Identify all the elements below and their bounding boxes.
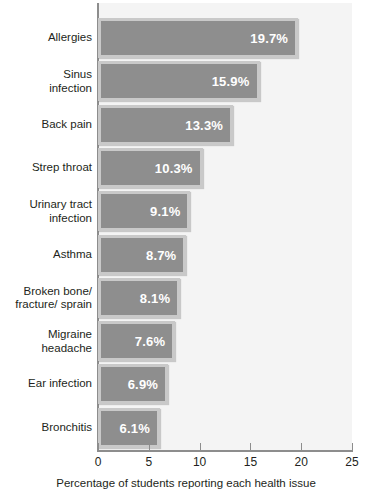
category-label: Urinary tract infection — [0, 198, 92, 225]
x-tick-label: 10 — [180, 455, 220, 469]
bar-wrapper: 10.3% — [98, 148, 203, 188]
bar[interactable]: 6.9% — [98, 364, 168, 404]
bar-row: Asthma8.7% — [0, 235, 372, 275]
category-label: Asthma — [0, 248, 92, 262]
bar-value-label: 9.1% — [150, 204, 180, 219]
x-tick-mark — [352, 443, 353, 451]
bar[interactable]: 10.3% — [98, 148, 203, 188]
bar-wrapper: 13.3% — [98, 105, 233, 145]
bar-wrapper: 19.7% — [98, 18, 298, 58]
bar-value-label: 15.9% — [212, 74, 250, 89]
x-axis-title: Percentage of students reporting each he… — [0, 477, 372, 489]
bar-row: Allergies19.7% — [0, 18, 372, 58]
category-label: Allergies — [0, 31, 92, 45]
bar-row: Sinus infection15.9% — [0, 61, 372, 101]
bar-row: Strep throat10.3% — [0, 148, 372, 188]
category-label: Broken bone/ fracture/ sprain — [0, 284, 92, 311]
x-tick-mark — [200, 443, 201, 451]
bar[interactable]: 8.1% — [98, 278, 180, 318]
x-axis-line — [97, 450, 353, 452]
bar-value-label: 8.7% — [146, 247, 176, 262]
x-tick-label: 25 — [332, 455, 372, 469]
bar[interactable]: 9.1% — [98, 191, 190, 231]
x-tick-label: 0 — [78, 455, 118, 469]
category-label: Strep throat — [0, 161, 92, 175]
bar-value-label: 10.3% — [155, 160, 193, 175]
bar[interactable]: 7.6% — [98, 321, 175, 361]
bar-row: Bronchitis6.1% — [0, 408, 372, 448]
bar-wrapper: 8.1% — [98, 278, 180, 318]
category-label: Sinus infection — [0, 68, 92, 95]
bar-value-label: 8.1% — [140, 290, 170, 305]
bar[interactable]: 13.3% — [98, 105, 233, 145]
x-tick-mark — [301, 443, 302, 451]
bar-row: Urinary tract infection9.1% — [0, 191, 372, 231]
bar[interactable]: 6.1% — [98, 408, 160, 448]
x-tick-mark — [250, 443, 251, 451]
x-tick-label: 15 — [230, 455, 270, 469]
bar[interactable]: 19.7% — [98, 18, 298, 58]
category-label: Back pain — [0, 118, 92, 132]
bar-wrapper: 9.1% — [98, 191, 190, 231]
bar-value-label: 6.9% — [128, 377, 158, 392]
bar-value-label: 6.1% — [120, 420, 150, 435]
bar[interactable]: 15.9% — [98, 61, 260, 101]
bar-wrapper: 6.1% — [98, 408, 160, 448]
x-tick-label: 5 — [129, 455, 169, 469]
x-tick-label: 20 — [281, 455, 321, 469]
bar-row: Migraine headache7.6% — [0, 321, 372, 361]
bar-wrapper: 8.7% — [98, 235, 186, 275]
bar-row: Ear infection6.9% — [0, 364, 372, 404]
bar-value-label: 7.6% — [135, 334, 165, 349]
bar-value-label: 13.3% — [185, 117, 223, 132]
category-label: Migraine headache — [0, 328, 92, 355]
bar-value-label: 19.7% — [250, 31, 288, 46]
bar[interactable]: 8.7% — [98, 235, 186, 275]
x-tick-mark — [98, 443, 99, 451]
bar-row: Back pain13.3% — [0, 105, 372, 145]
category-label: Bronchitis — [0, 421, 92, 435]
horizontal-bar-chart: Allergies19.7%Sinus infection15.9%Back p… — [0, 0, 372, 500]
x-tick-mark — [149, 443, 150, 451]
bar-wrapper: 7.6% — [98, 321, 175, 361]
bar-row: Broken bone/ fracture/ sprain8.1% — [0, 278, 372, 318]
bar-wrapper: 15.9% — [98, 61, 260, 101]
category-label: Ear infection — [0, 378, 92, 392]
bar-wrapper: 6.9% — [98, 364, 168, 404]
